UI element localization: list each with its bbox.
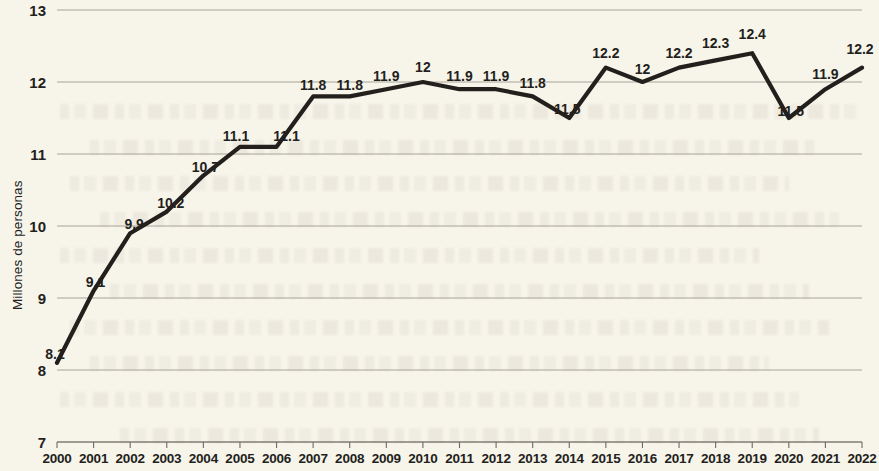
y-axis-tick-label: 12: [12, 75, 46, 90]
data-point-label: 12.4: [739, 27, 766, 41]
data-point-label: 12: [635, 62, 651, 76]
y-axis-tick-label: 13: [12, 3, 46, 18]
data-point-label: 11.1: [223, 129, 249, 143]
data-point-label: 11.8: [336, 78, 362, 92]
data-point-label: 9.9: [124, 217, 143, 231]
data-point-label: 12.2: [846, 42, 873, 56]
data-point-label: 12.2: [592, 46, 619, 60]
data-point-label: 12.2: [665, 46, 692, 60]
x-axis-tick-label: 2022: [840, 452, 879, 466]
data-point-label: 10.7: [192, 160, 219, 174]
chart-container: Millones de personas 78910111213 2000200…: [0, 0, 879, 471]
data-point-label: 11.9: [483, 69, 509, 83]
y-axis-tick-label: 10: [12, 219, 46, 234]
x-axis-ticks: [57, 442, 862, 448]
data-point-label: 10.2: [157, 196, 184, 210]
y-axis-tick-label: 11: [12, 147, 46, 162]
data-point-label: 11.5: [778, 104, 804, 118]
y-axis-tick-label: 9: [12, 291, 46, 306]
plot-area: [0, 0, 879, 471]
data-point-label: 11.1: [273, 129, 299, 143]
data-point-label: 11.8: [519, 76, 545, 90]
data-point-label: 11.8: [300, 78, 326, 92]
data-point-label: 11.5: [554, 102, 580, 116]
data-point-label: 11.9: [812, 67, 838, 81]
y-axis-tick-label: 7: [12, 435, 46, 450]
y-axis-tick-label: 8: [12, 363, 46, 378]
data-point-label: 8.1: [45, 347, 64, 361]
data-point-label: 11.9: [446, 69, 472, 83]
data-point-label: 11.9: [373, 69, 399, 83]
data-point-label: 12: [415, 60, 431, 74]
data-point-label: 12.3: [702, 36, 729, 50]
data-point-label: 9.1: [86, 275, 105, 289]
